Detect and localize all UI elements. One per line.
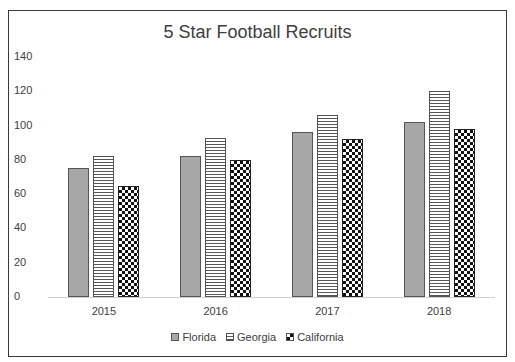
legend-item-georgia: Georgia: [226, 331, 276, 343]
legend-item-california: California: [286, 331, 343, 343]
bar-georgia-2015: [93, 156, 114, 297]
bar-florida-2018: [404, 122, 425, 297]
bar-florida-2017: [292, 132, 313, 297]
y-tick-label: 20: [14, 256, 44, 268]
x-tick-label: 2015: [74, 305, 134, 317]
bar-florida-2015: [68, 168, 89, 297]
bar-georgia-2016: [205, 138, 226, 297]
striped-pattern-icon: [226, 333, 234, 341]
bar-california-2018: [454, 129, 475, 297]
dotted-pattern-icon: [171, 333, 179, 341]
checkerboard-pattern-icon: [286, 333, 294, 341]
x-tick-label: 2018: [409, 305, 469, 317]
bar-florida-2016: [180, 156, 201, 297]
x-tick-label: 2017: [297, 305, 357, 317]
y-tick-label: 120: [14, 84, 44, 96]
legend-label: Florida: [182, 331, 216, 343]
bar-georgia-2017: [317, 115, 338, 297]
legend-item-florida: Florida: [171, 331, 216, 343]
y-tick-label: 40: [14, 221, 44, 233]
legend-label: Georgia: [237, 331, 276, 343]
legend: Florida Georgia California: [0, 331, 515, 343]
y-tick-label: 60: [14, 187, 44, 199]
bar-california-2015: [118, 186, 139, 297]
chart-title: 5 Star Football Recruits: [0, 22, 515, 43]
bar-california-2017: [342, 139, 363, 297]
bar-california-2016: [230, 160, 251, 297]
x-axis-line: [48, 297, 495, 298]
y-tick-label: 100: [14, 119, 44, 131]
legend-label: California: [297, 331, 343, 343]
y-tick-label: 0: [14, 290, 44, 302]
x-tick-label: 2016: [186, 305, 246, 317]
bar-georgia-2018: [429, 91, 450, 297]
y-tick-label: 140: [14, 50, 44, 62]
y-tick-label: 80: [14, 153, 44, 165]
